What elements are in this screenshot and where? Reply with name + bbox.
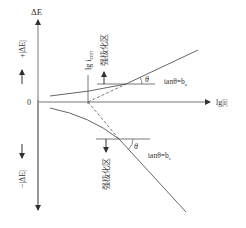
icorr-label: lg icorr: [84, 51, 94, 70]
y-axis-label: ΔE: [31, 7, 43, 17]
negative-delta-e-label: −|ΔE|: [18, 170, 27, 188]
anodic-angle-arc: [140, 77, 142, 84]
positive-delta-e-label: +|ΔE|: [18, 40, 27, 58]
x-axis-label: lg|i|: [216, 98, 228, 107]
origin-label: 0: [27, 98, 31, 107]
cathodic-region-label: 强极化区: [101, 158, 111, 190]
anodic-region-label: 强极化区: [99, 34, 109, 66]
anodic-theta: θ: [145, 75, 149, 84]
anodic-curve: [50, 50, 198, 96]
cathodic-theta: θ: [134, 142, 138, 151]
cathodic-extrapolation: [88, 102, 119, 139]
cathodic-curve: [50, 108, 186, 212]
anodic-slope-label: tanθ=ba: [164, 77, 188, 87]
cathodic-slope-label: tanθ=bc: [148, 151, 172, 161]
anodic-extrapolation: [88, 84, 126, 102]
cathodic-angle-arc: [129, 139, 133, 149]
tafel-diagram: ΔE lg|i| 0 +|ΔE| −|ΔE| lg icorr θ tanθ=b…: [0, 0, 246, 228]
